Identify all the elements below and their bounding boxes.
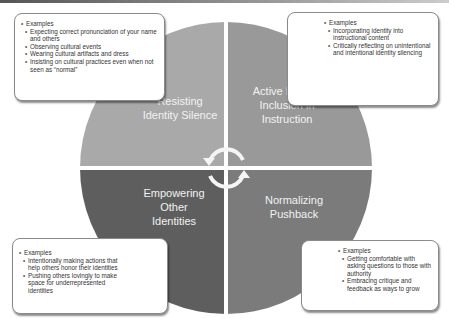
examples-box-bottom-left: Examples Intentionally making actions th… xyxy=(12,238,168,314)
examples-box-bottom-right: Examples Getting comfortable with asking… xyxy=(301,240,439,311)
examples-heading: Examples xyxy=(338,247,432,255)
example-item: Critically reflecting on unintentional a… xyxy=(328,42,432,57)
example-item: Getting comfortable with asking question… xyxy=(342,255,432,278)
examples-heading: Examples xyxy=(19,249,127,257)
examples-box-top-right: Examples Incorporating identity into ins… xyxy=(287,12,439,106)
example-item: Wearing cultural artifacts and dress xyxy=(25,50,158,58)
examples-box-top-left: Examples Expecting correct pronunciation… xyxy=(14,13,165,101)
label-line: Identities xyxy=(132,214,216,228)
examples-heading: Examples xyxy=(21,20,158,28)
label-line: Normalizing xyxy=(244,193,344,207)
label-line: Identity Silence xyxy=(130,108,230,122)
example-item: Observing cultural events xyxy=(25,43,158,51)
example-item: Expecting correct pronunciation of your … xyxy=(25,28,158,43)
example-item: Pushing others lovingly to make space fo… xyxy=(23,272,127,295)
label-line: Other xyxy=(132,200,216,214)
cycle-arrows-icon xyxy=(210,149,243,187)
examples-heading: Examples xyxy=(324,19,432,27)
example-item: Incorporating identity into instructiona… xyxy=(328,27,432,42)
example-item: Insisting on cultural practices even whe… xyxy=(25,58,158,73)
label-line: Instruction xyxy=(232,112,342,126)
quadrant-label-normalizing-pushback: Normalizing Pushback xyxy=(244,193,344,221)
label-line: Empowering xyxy=(132,186,216,200)
example-item: Intentionally making actions that help o… xyxy=(23,257,127,272)
quadrant-label-empowering-other-identities: Empowering Other Identities xyxy=(132,186,216,228)
example-item: Embracing critique and feedback as ways … xyxy=(342,277,432,292)
label-line: Pushback xyxy=(244,207,344,221)
